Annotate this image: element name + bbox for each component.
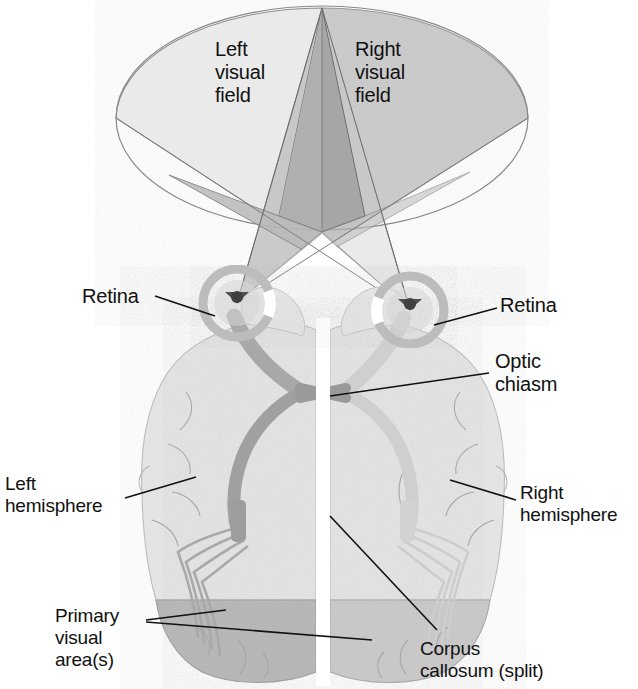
- corpus-callosum-split-gap-overlay: [316, 318, 330, 686]
- optic-radiation-right-stem: [400, 500, 415, 542]
- split-brain-visual-pathway-figure: Left visual field Right visual field Ret…: [0, 0, 638, 689]
- left-hemisphere-body: [142, 321, 316, 600]
- visual-field-cones: [116, 6, 528, 310]
- label-right-hemisphere: Right hemisphere: [520, 482, 617, 526]
- label-corpus-callosum: Corpus callosum (split): [420, 638, 544, 682]
- label-primary-visual-area: Primary visual area(s): [55, 605, 119, 671]
- label-left-visual-field: Left visual field: [215, 38, 265, 107]
- label-right-visual-field: Right visual field: [355, 38, 405, 107]
- label-left-hemisphere: Left hemisphere: [5, 473, 102, 517]
- optic-radiation-left-stem: [231, 500, 246, 542]
- label-retina-left: Retina: [82, 285, 139, 308]
- diagram-artwork: [0, 0, 638, 689]
- label-optic-chiasm: Optic chiasm: [495, 350, 557, 396]
- primary-visual-cortex-left: [156, 600, 316, 683]
- label-retina-right: Retina: [500, 294, 557, 317]
- right-hemisphere-body: [330, 321, 504, 600]
